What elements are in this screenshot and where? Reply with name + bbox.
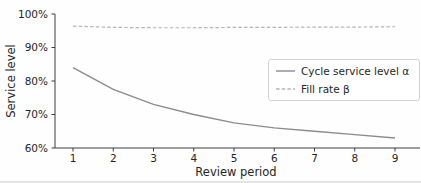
y-tick-label: 100%: [18, 8, 48, 20]
x-tick-label: 9: [392, 152, 399, 164]
legend: Cycle service level α Fill rate β: [269, 60, 420, 101]
y-tick-label: 70%: [25, 108, 48, 120]
x-tick-label: 6: [271, 152, 278, 164]
x-tick-label: 8: [351, 152, 358, 164]
legend-label-fill-rate: Fill rate β: [301, 83, 350, 95]
y-axis-title: Service level: [4, 44, 18, 118]
y-tick-label: 60%: [25, 142, 48, 154]
y-tick-label: 90%: [25, 41, 48, 53]
chart-figure: 60%70%80%90%100%123456789 Review period …: [0, 0, 421, 183]
x-tick-label: 3: [150, 152, 157, 164]
x-axis-title: Review period: [195, 165, 276, 179]
x-tick-label: 5: [231, 152, 238, 164]
legend-label-cycle-service-level: Cycle service level α: [301, 65, 409, 77]
line-chart: 60%70%80%90%100%123456789 Review period …: [0, 0, 421, 183]
y-tick-label: 80%: [25, 75, 48, 87]
x-tick-label: 7: [311, 152, 318, 164]
x-tick-label: 4: [190, 152, 197, 164]
x-tick-label: 2: [110, 152, 117, 164]
series-fill-rate: [73, 26, 395, 28]
x-tick-label: 1: [70, 152, 77, 164]
